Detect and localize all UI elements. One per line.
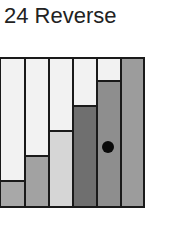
column-5[interactable] <box>98 59 120 206</box>
column-3-fill <box>50 130 72 206</box>
column-4[interactable] <box>74 59 96 206</box>
level-title: 24 Reverse <box>4 3 117 29</box>
column-6[interactable] <box>122 59 143 206</box>
column-2[interactable] <box>26 59 48 206</box>
column-3[interactable] <box>50 59 72 206</box>
column-1-fill <box>1 180 24 206</box>
column-1[interactable] <box>1 59 24 206</box>
column-2-fill <box>26 155 48 206</box>
puzzle-board <box>0 57 145 208</box>
column-4-fill <box>74 105 96 206</box>
black-dot-icon[interactable] <box>102 141 114 153</box>
